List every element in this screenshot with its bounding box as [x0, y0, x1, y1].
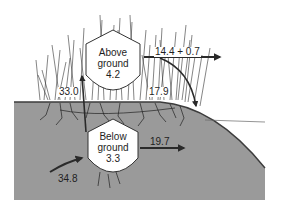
flow-label-input-below: 34.8: [58, 174, 77, 184]
flow-label-below-export: 19.7: [150, 137, 169, 147]
above-ground-value: 4.2: [88, 69, 138, 80]
below-ground-value: 3.3: [88, 153, 138, 164]
flow-label-above-export: 14.4 + 0.7: [154, 47, 201, 57]
below-ground-label-1: Below: [88, 131, 138, 142]
below-ground-label-2: ground: [88, 142, 138, 153]
flow-label-below-to-above: 33.0: [58, 87, 79, 97]
above-ground-label-2: ground: [88, 58, 138, 69]
above-ground-label-1: Above: [88, 47, 138, 58]
above-ground-pool: Above ground 4.2: [88, 47, 138, 80]
flow-label-above-to-litter: 17.9: [148, 87, 169, 97]
diagram-canvas: [0, 0, 284, 208]
soil-mound: [14, 102, 265, 200]
below-ground-pool: Below ground 3.3: [88, 131, 138, 164]
